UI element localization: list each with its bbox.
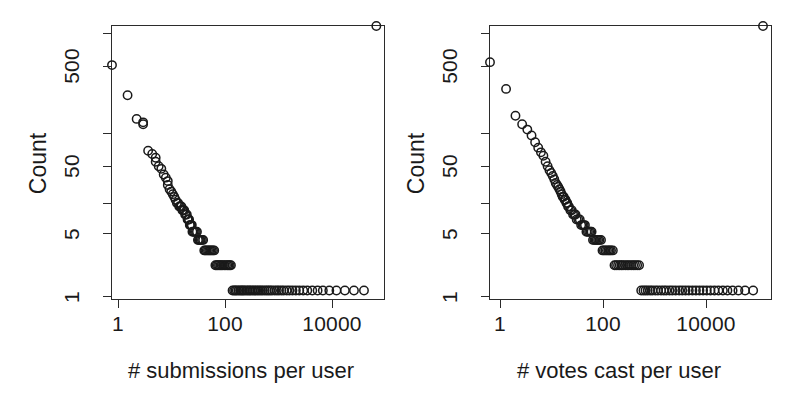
y-tick-500 <box>481 66 489 67</box>
x-tick-100 <box>225 300 226 308</box>
data-point <box>502 85 510 93</box>
scatter-points-votes <box>490 26 773 301</box>
y-tick-label-1: 1 <box>60 285 84 309</box>
x-tick-10000 <box>706 300 707 308</box>
y-tick-minor <box>103 33 111 34</box>
plot-area-votes <box>489 25 772 300</box>
data-point <box>523 125 531 133</box>
x-tick-label-1: 1 <box>470 312 530 336</box>
x-tick-label-10000: 10000 <box>656 312 756 336</box>
y-tick-label-500: 500 <box>438 38 462 94</box>
y-tick-50 <box>481 166 489 167</box>
data-point <box>372 22 380 30</box>
data-point <box>123 91 131 99</box>
x-tick-1 <box>118 300 119 308</box>
x-tick-label-10000: 10000 <box>282 312 382 336</box>
figure-container: 500 50 5 1 1 100 10000 # submissions per… <box>0 0 799 413</box>
y-tick-minor <box>103 203 111 204</box>
x-tick-label-1: 1 <box>88 312 148 336</box>
y-tick-label-500: 500 <box>60 38 84 94</box>
x-axis-title-votes: # votes cast per user <box>469 358 769 384</box>
data-point <box>350 286 358 294</box>
panel-submissions: 500 50 5 1 1 100 10000 # submissions per… <box>0 0 399 413</box>
y-axis-title-votes: Count <box>403 84 430 244</box>
x-tick-label-100: 100 <box>185 312 265 336</box>
y-tick-minor <box>103 133 111 134</box>
y-tick-1 <box>103 296 111 297</box>
y-tick-minor <box>481 133 489 134</box>
y-tick-minor <box>481 33 489 34</box>
data-point <box>759 22 767 30</box>
scatter-points-submissions <box>112 26 386 301</box>
y-tick-1 <box>481 296 489 297</box>
data-point <box>360 286 368 294</box>
x-tick-10000 <box>332 300 333 308</box>
x-axis-title-submissions: # submissions per user <box>91 358 391 384</box>
x-tick-100 <box>603 300 604 308</box>
y-tick-label-1: 1 <box>438 285 462 309</box>
panel-votes: 500 50 5 1 1 100 10000 # votes cast per … <box>400 0 799 413</box>
plot-area-submissions <box>111 25 385 300</box>
data-point <box>511 112 519 120</box>
y-tick-5 <box>103 233 111 234</box>
y-tick-label-5: 5 <box>438 222 462 246</box>
y-tick-50 <box>103 166 111 167</box>
y-tick-5 <box>481 233 489 234</box>
x-tick-label-100: 100 <box>563 312 643 336</box>
y-tick-label-5: 5 <box>60 222 84 246</box>
y-tick-500 <box>103 66 111 67</box>
y-axis-title-submissions: Count <box>25 84 52 244</box>
y-tick-label-50: 50 <box>60 146 84 186</box>
y-tick-label-50: 50 <box>438 146 462 186</box>
data-point <box>518 120 526 128</box>
data-point <box>749 286 757 294</box>
y-tick-minor <box>481 203 489 204</box>
x-tick-1 <box>500 300 501 308</box>
data-point <box>341 286 349 294</box>
